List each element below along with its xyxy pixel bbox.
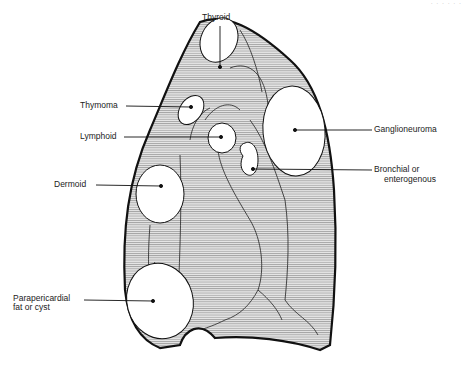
label-bronchial-line2: enterogenous — [384, 175, 436, 184]
label-bronchial-line1: Bronchial or — [374, 165, 419, 174]
label-lymphoid: Lymphoid — [80, 132, 117, 141]
label-thyroid: Thyroid — [202, 13, 230, 22]
mass-dermoid — [136, 165, 184, 223]
label-thymoma: Thymoma — [80, 101, 118, 110]
mass-bronchial — [240, 142, 258, 175]
label-parapericardial-line2: fat or cyst — [13, 303, 50, 312]
label-ganglioneuroma: Ganglioneuroma — [374, 125, 437, 134]
label-dermoid: Dermoid — [54, 180, 86, 189]
